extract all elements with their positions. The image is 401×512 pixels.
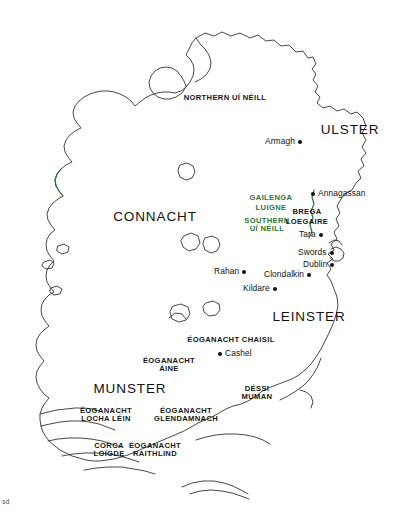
corner-fragment-2 xyxy=(190,490,249,499)
highlight-east-coast xyxy=(309,190,314,238)
inner-shape-midlands xyxy=(203,301,220,316)
lake-inner-3 xyxy=(170,304,190,322)
lake-inner-1 xyxy=(178,163,195,180)
corner-scan-artifact: sd xyxy=(2,498,9,505)
map-canvas: ULSTER CONNACHT LEINSTER MUNSTER NORTHER… xyxy=(0,0,401,512)
coastline-north-inlet xyxy=(149,67,186,99)
coastline-southeast-detail xyxy=(280,358,321,400)
peninsula-2 xyxy=(41,421,115,430)
peninsula-5 xyxy=(84,467,155,474)
peninsula-3 xyxy=(48,438,121,447)
coastline-dublin-bay xyxy=(330,247,344,261)
inner-shape-connacht xyxy=(181,233,200,251)
coastline-northeast-detail xyxy=(195,38,211,82)
island-west-1 xyxy=(57,244,69,254)
lake-inner-2 xyxy=(203,236,220,253)
corner-fragment xyxy=(182,481,248,494)
coastline-south-detail xyxy=(196,434,270,444)
coastline-wexford-notch xyxy=(300,390,313,408)
peninsula-1 xyxy=(40,408,100,414)
coastline-main xyxy=(36,32,366,461)
island-west-3 xyxy=(50,286,62,295)
highlight-west-coast xyxy=(55,169,63,196)
ireland-coastline xyxy=(0,0,401,512)
